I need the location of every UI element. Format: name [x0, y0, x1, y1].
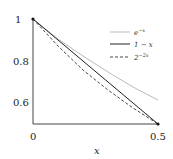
y-tick-0.8: 0.8 [13, 56, 29, 67]
series-linear [33, 19, 158, 124]
x-tick-0.5: 0.5 [150, 131, 166, 142]
x-axis-label: x [94, 145, 100, 156]
legend-label-linear: 1 − x [134, 41, 153, 49]
legend: e−x 1 − x 2−2x [110, 27, 153, 62]
legend-label-pow2: 2−2x [133, 52, 149, 62]
y-tick-1: 1 [15, 14, 21, 25]
chart: 1 0.8 0.6 0 0.5 x e−x 1 − x 2−2x [0, 0, 173, 159]
legend-label-exp: e−x [134, 27, 145, 37]
endpoint-marker [156, 122, 159, 125]
x-tick-0: 0 [30, 131, 36, 142]
endpoint-marker [31, 17, 34, 20]
y-tick-0.6: 0.6 [13, 97, 29, 108]
